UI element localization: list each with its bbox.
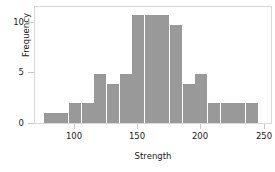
histogram-bar <box>44 113 56 123</box>
histogram-bar <box>183 84 195 123</box>
x-tick-label-150: 150 <box>122 131 152 141</box>
x-tick-mark-100 <box>74 124 75 129</box>
histogram-bar <box>170 25 182 123</box>
x-axis-label: Strength <box>33 150 273 162</box>
histogram-bar <box>208 103 220 123</box>
x-tick-mark-150 <box>137 124 138 129</box>
x-tick-label-100: 100 <box>59 131 89 141</box>
x-tick-label-200: 200 <box>185 131 215 141</box>
y-tick-label-5: 5 <box>4 68 24 77</box>
histogram-bar <box>82 103 94 123</box>
x-tick-mark-200 <box>200 124 201 129</box>
histogram-bar <box>107 84 119 123</box>
histogram-bar <box>246 103 258 123</box>
histogram-bar <box>94 74 106 123</box>
x-tick-label-250: 250 <box>249 131 275 141</box>
histogram-bar <box>120 74 132 123</box>
y-tick-label-0: 0 <box>4 119 24 128</box>
histogram-bar <box>195 74 207 123</box>
histogram-bar <box>56 113 68 123</box>
histogram-bar <box>157 15 169 123</box>
histogram-bar <box>145 15 157 123</box>
histogram-bar <box>132 15 144 123</box>
histogram-figure: Frequency 10 5 0 100 150 200 250 Strengt… <box>0 0 275 172</box>
histogram-bars <box>35 7 271 123</box>
y-tick-label-10: 10 <box>4 18 24 27</box>
histogram-bar <box>221 103 233 123</box>
x-tick-mark-250 <box>264 124 265 129</box>
histogram-bar <box>233 103 245 123</box>
plot-area <box>34 6 272 124</box>
histogram-bar <box>69 103 81 123</box>
